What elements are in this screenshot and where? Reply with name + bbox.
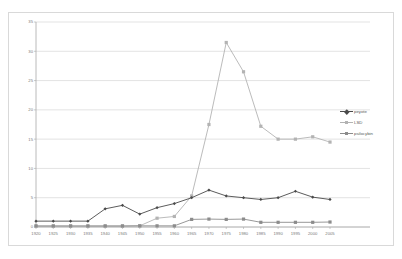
y-tick-label: 0 bbox=[20, 224, 33, 229]
data-point bbox=[328, 220, 331, 223]
data-point bbox=[311, 135, 314, 138]
axes bbox=[36, 22, 370, 227]
data-point bbox=[311, 196, 314, 199]
data-point bbox=[225, 218, 228, 221]
data-point bbox=[242, 196, 245, 199]
data-point bbox=[34, 224, 37, 227]
data-point bbox=[242, 217, 245, 220]
data-point bbox=[34, 220, 37, 223]
x-tick-label: 1975 bbox=[218, 231, 234, 236]
data-point bbox=[69, 220, 72, 223]
y-tick-label: 10 bbox=[20, 166, 33, 171]
series-line bbox=[36, 43, 330, 227]
data-point bbox=[138, 224, 141, 227]
x-tick-label: 1980 bbox=[236, 231, 252, 236]
series-line bbox=[36, 219, 330, 226]
data-point bbox=[190, 218, 193, 221]
x-tick-label: 1935 bbox=[80, 231, 96, 236]
data-point bbox=[86, 224, 89, 227]
x-tick-label: 1955 bbox=[149, 231, 165, 236]
data-point bbox=[294, 221, 297, 224]
data-point bbox=[52, 224, 55, 227]
data-point bbox=[225, 41, 228, 44]
x-tick-label: 1950 bbox=[132, 231, 148, 236]
data-point bbox=[259, 198, 262, 201]
data-point bbox=[173, 215, 176, 218]
data-point bbox=[69, 224, 72, 227]
x-tick-label: 1995 bbox=[287, 231, 303, 236]
x-tick-label: 1940 bbox=[97, 231, 113, 236]
legend-label: peyote bbox=[354, 109, 367, 114]
x-tick-label: 2000 bbox=[305, 231, 321, 236]
data-point bbox=[225, 194, 228, 197]
data-point bbox=[311, 221, 314, 224]
data-point bbox=[277, 196, 280, 199]
data-point bbox=[155, 217, 158, 220]
data-point bbox=[207, 123, 210, 126]
chart-legend: peyoteLSDpsilocybin bbox=[340, 106, 392, 139]
data-point bbox=[259, 221, 262, 224]
x-tick-label: 1920 bbox=[28, 231, 44, 236]
x-tick-label: 2005 bbox=[322, 231, 338, 236]
data-point bbox=[138, 213, 141, 216]
x-tick-label: 1970 bbox=[201, 231, 217, 236]
series-psilocybin bbox=[34, 217, 331, 227]
y-tick-label: 35 bbox=[20, 19, 33, 24]
x-tick-label: 1990 bbox=[270, 231, 286, 236]
data-point bbox=[242, 70, 245, 73]
data-point bbox=[104, 224, 107, 227]
series-lsd bbox=[34, 41, 331, 228]
x-tick-label: 1930 bbox=[63, 231, 79, 236]
y-tick-label: 30 bbox=[20, 49, 33, 54]
data-point bbox=[328, 198, 331, 201]
legend-marker-icon bbox=[340, 120, 353, 125]
data-point bbox=[52, 220, 55, 223]
legend-item-peyote[interactable]: peyote bbox=[340, 106, 392, 117]
x-tick-label: 1985 bbox=[253, 231, 269, 236]
legend-marker-icon bbox=[340, 131, 353, 136]
y-tick-label: 5 bbox=[20, 195, 33, 200]
data-point bbox=[173, 224, 176, 227]
data-point bbox=[259, 125, 262, 128]
legend-item-psilocybin[interactable]: psilocybin bbox=[340, 128, 392, 139]
x-tick-label: 1960 bbox=[166, 231, 182, 236]
data-point bbox=[277, 221, 280, 224]
legend-item-lsd[interactable]: LSD bbox=[340, 117, 392, 128]
data-point bbox=[277, 138, 280, 141]
legend-label: LSD bbox=[354, 120, 362, 125]
y-tick-label: 20 bbox=[20, 107, 33, 112]
series-layer bbox=[34, 41, 331, 228]
x-tick-label: 1965 bbox=[184, 231, 200, 236]
x-tick-label: 1945 bbox=[114, 231, 130, 236]
x-tick-label: 1925 bbox=[45, 231, 61, 236]
data-point bbox=[155, 206, 158, 209]
legend-label: psilocybin bbox=[354, 131, 373, 136]
y-tick-label: 25 bbox=[20, 78, 33, 83]
data-point bbox=[121, 204, 124, 207]
data-point bbox=[207, 217, 210, 220]
legend-marker-icon bbox=[340, 109, 353, 114]
gridlines bbox=[36, 22, 370, 227]
data-point bbox=[155, 224, 158, 227]
data-point bbox=[173, 202, 176, 205]
data-point bbox=[207, 189, 210, 192]
data-point bbox=[294, 138, 297, 141]
data-point bbox=[294, 190, 297, 193]
data-point bbox=[328, 140, 331, 143]
y-tick-label: 15 bbox=[20, 137, 33, 142]
data-point bbox=[121, 224, 124, 227]
